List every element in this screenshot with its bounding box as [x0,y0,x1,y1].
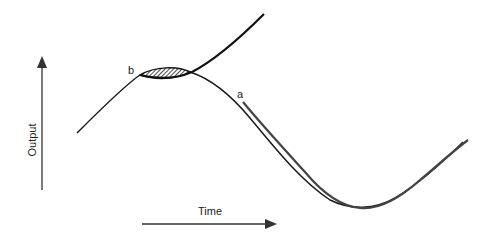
arrowhead-right-icon [265,219,277,229]
y-axis-label: Output [26,123,38,156]
diagram-canvas: Output Time b a [0,0,494,242]
point-label-b: b [128,64,134,76]
arrowhead-up-icon [37,56,47,68]
x-axis-label: Time [198,205,222,217]
output-axis-arrow [37,56,47,190]
output-curve [77,69,463,207]
approximation-curve-a [243,102,468,208]
point-label-a: a [237,88,244,100]
time-axis-arrow [142,219,277,229]
